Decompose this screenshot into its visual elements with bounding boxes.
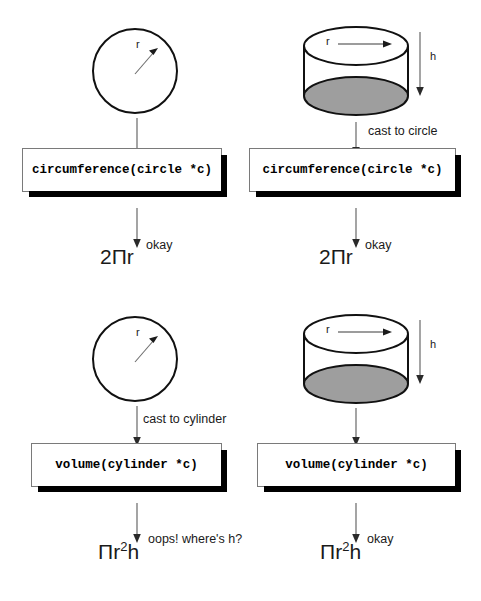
- formula-base: 2Πr: [319, 245, 353, 268]
- circle-radius-label: r: [136, 326, 140, 338]
- result-status-label: oops! where's h?: [148, 532, 242, 546]
- box-shadow-bottom: [29, 191, 227, 197]
- circle-radius-label: r: [136, 38, 140, 50]
- cylinder-figure: r: [298, 24, 414, 124]
- flow-arrow-icon: [346, 408, 366, 448]
- result-formula: Πr2h: [98, 540, 139, 564]
- circle-figure: r: [92, 316, 182, 408]
- cast-label-cylinder: cast to cylinder: [143, 412, 226, 426]
- result-arrow-icon: [127, 208, 147, 250]
- box-shadow-bottom: [264, 486, 461, 492]
- panel-circle-to-circumference: r circumference(circle *c) okay 2Πr: [0, 0, 240, 300]
- cylinder-height-label: h: [430, 338, 436, 350]
- code-text: volume(cylinder *c): [285, 458, 428, 472]
- cylinder-figure: r: [298, 312, 414, 412]
- code-box-volume-left[interactable]: volume(cylinder *c): [31, 443, 222, 487]
- cylinder-height-label: h: [430, 50, 436, 62]
- formula-base: 2Πr: [100, 245, 134, 268]
- formula-suffix: h: [349, 540, 361, 563]
- code-box-volume-right[interactable]: volume(cylinder *c): [257, 443, 456, 487]
- cylinder-radius-label: r: [326, 35, 330, 47]
- result-formula: 2Πr: [319, 245, 353, 269]
- panel-cylinder-to-circumference: r h cast to circle circumference(circle …: [240, 0, 481, 300]
- result-status-label: okay: [365, 238, 391, 252]
- result-arrow-icon: [346, 208, 366, 250]
- diagram-canvas: r circumference(circle *c) okay 2Πr: [0, 0, 481, 601]
- panel-cylinder-to-volume: r h volume(cylinder *c) okay Πr2h: [240, 300, 481, 601]
- formula-base: Πr: [98, 540, 120, 563]
- code-text: circumference(circle *c): [32, 163, 212, 177]
- code-text: volume(cylinder *c): [55, 458, 198, 472]
- result-formula: Πr2h: [320, 540, 361, 564]
- formula-base: Πr: [320, 540, 342, 563]
- circle-figure: r: [92, 28, 182, 120]
- cylinder-radius-label: r: [326, 323, 330, 335]
- height-arrow-icon: [412, 32, 428, 98]
- box-shadow-bottom: [256, 191, 461, 197]
- result-status-label: okay: [146, 238, 172, 252]
- result-arrow-icon: [127, 503, 147, 545]
- panel-circle-to-volume: r cast to cylinder volume(cylinder *c) o…: [0, 300, 240, 601]
- code-box-circumference-right[interactable]: circumference(circle *c): [249, 148, 456, 192]
- result-formula: 2Πr: [100, 245, 134, 269]
- cylinder-shape-icon: [298, 312, 414, 412]
- cylinder-shape-icon: [298, 24, 414, 124]
- formula-suffix: h: [127, 540, 139, 563]
- code-box-circumference-left[interactable]: circumference(circle *c): [22, 148, 222, 192]
- result-status-label: okay: [367, 532, 393, 546]
- box-shadow-bottom: [38, 486, 227, 492]
- height-arrow-icon: [412, 320, 428, 386]
- cast-label-circle: cast to circle: [368, 124, 437, 138]
- code-text: circumference(circle *c): [262, 163, 442, 177]
